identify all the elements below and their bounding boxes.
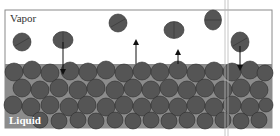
liquid-label: Liquid — [9, 114, 41, 126]
vapor-liquid-diagram — [0, 0, 280, 136]
vapor-label: Vapor — [10, 12, 36, 24]
